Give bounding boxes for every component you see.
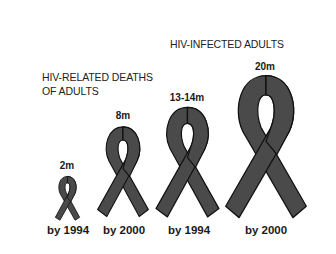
year-label-deaths-1994: by 1994 bbox=[42, 224, 94, 236]
value-label-infected-2000: 20m bbox=[249, 61, 281, 72]
ribbon-icon bbox=[154, 104, 221, 221]
ribbon-icon bbox=[54, 175, 81, 223]
infected-adults-title: HIV-INFECTED ADULTS bbox=[170, 38, 284, 50]
deaths-title-line2: OF ADULTS bbox=[42, 85, 99, 97]
year-label-infected-2000: by 2000 bbox=[238, 224, 294, 236]
value-label-deaths-2000: 8m bbox=[108, 110, 138, 121]
deaths-title-line1: HIV-RELATED DEATHS bbox=[42, 71, 153, 83]
year-label-infected-1994: by 1994 bbox=[162, 224, 216, 236]
year-label-deaths-2000: by 2000 bbox=[97, 224, 151, 236]
ribbon-icon bbox=[224, 73, 308, 222]
value-label-infected-1994: 13-14m bbox=[165, 92, 209, 103]
ribbon-icon bbox=[96, 124, 150, 221]
value-label-deaths-1994: 2m bbox=[52, 160, 82, 171]
